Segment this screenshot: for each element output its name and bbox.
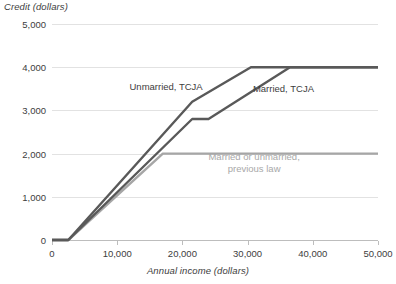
x-axis-title: Annual income (dollars) — [0, 265, 396, 276]
previous-law-label-line1: Married or unmarried, — [208, 151, 299, 163]
series-label-previous-law: Married or unmarried, previous law — [208, 151, 299, 175]
previous-law-label-line2: previous law — [208, 163, 299, 175]
series-label-married-tcja: Married, TCJA — [253, 83, 314, 95]
credit-vs-income-chart: Credit (dollars) 01,0002,0003,0004,0005,… — [0, 0, 396, 284]
series-label-unmarried-tcja: Unmarried, TCJA — [129, 81, 202, 93]
plot-lines — [0, 0, 396, 284]
